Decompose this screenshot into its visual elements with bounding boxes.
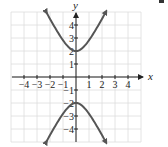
corner-mark [159, 0, 164, 3]
x-tick-label: −3 [32, 79, 43, 90]
x-axis-label: x [147, 70, 153, 82]
y-tick-label: −1 [63, 85, 74, 96]
hyperbola-graph: xy −4−3−2−112344321−1−2−3−4 [0, 0, 168, 147]
x-tick-label: 2 [100, 79, 105, 90]
x-tick-label: 3 [113, 79, 118, 90]
y-tick-label: 1 [69, 59, 74, 70]
x-tick-label: −2 [45, 79, 56, 90]
y-tick-label: 3 [69, 33, 74, 44]
x-tick-label: −4 [19, 79, 30, 90]
y-tick-label: 4 [69, 20, 74, 31]
axes: xy [12, 0, 153, 142]
y-tick-label: −4 [63, 124, 74, 135]
x-tick-label: 1 [87, 79, 92, 90]
y-axis-label: y [72, 0, 78, 11]
x-tick-label: 4 [126, 79, 131, 90]
